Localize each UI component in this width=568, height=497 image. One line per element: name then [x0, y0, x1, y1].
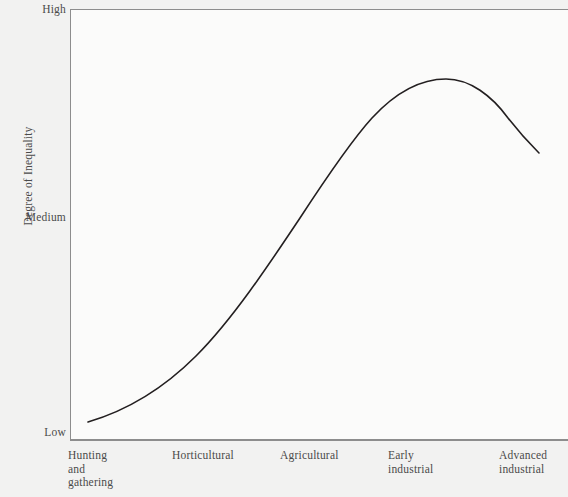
plot-area	[70, 9, 568, 440]
x-tick-label-hunting-and-gathering: Hunting and gathering	[68, 449, 113, 490]
x-tick-label-horticultural: Horticultural	[172, 449, 234, 463]
x-tick-label-advanced-industrial: Advanced industrial	[499, 449, 547, 476]
y-tick-label-medium: Medium	[4, 211, 66, 223]
x-tick-label-early-industrial: Early industrial	[388, 449, 433, 476]
chart-figure: Degree of Inequality High Medium Low Hun…	[0, 0, 568, 497]
x-axis-line	[70, 440, 568, 441]
y-tick-label-low: Low	[4, 426, 66, 438]
plot-top-border	[70, 9, 568, 10]
y-tick-label-high: High	[4, 3, 66, 15]
x-axis-tick-labels: Hunting and gathering Horticultural Agri…	[0, 449, 568, 497]
x-tick-label-agricultural: Agricultural	[280, 449, 339, 463]
y-axis-tick-labels: High Medium Low	[0, 0, 66, 450]
